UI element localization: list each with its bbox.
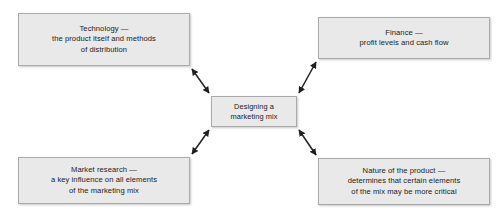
node-center-designing-marketing-mix: Designing a marketing mix (211, 96, 297, 127)
node-finance: Finance — profit levels and cash flow (318, 17, 490, 59)
node-nature-of-product: Nature of the product — determines that … (318, 158, 490, 205)
node-finance-label: Finance — profit levels and cash flow (355, 28, 452, 49)
connector-market-research-center (192, 130, 209, 154)
marketing-mix-diagram: Technology — the product itself and meth… (0, 0, 502, 220)
node-technology-label: Technology — the product itself and meth… (48, 24, 160, 55)
node-nature-of-product-label: Nature of the product — determines that … (344, 166, 465, 197)
connector-nature-of-product-center (299, 130, 316, 155)
node-technology: Technology — the product itself and meth… (18, 13, 190, 66)
node-market-research: Market research — a key influence on all… (18, 157, 190, 204)
node-market-research-label: Market research — a key influence on all… (47, 165, 161, 196)
connector-finance-center (299, 62, 316, 93)
node-center-label: Designing a marketing mix (227, 102, 282, 122)
connector-technology-center (192, 69, 209, 93)
